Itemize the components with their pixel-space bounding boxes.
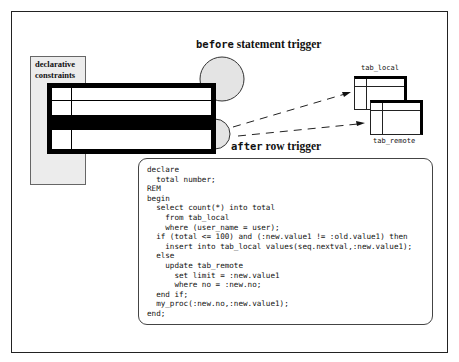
dashed-arrow-to-tab-remote xyxy=(238,124,358,136)
dashed-arrow-to-tab-local xyxy=(233,94,345,127)
trigger-code: declare total number; REM begin select c… xyxy=(147,165,412,319)
arrowhead-icon xyxy=(356,121,365,126)
tab-local-label: tab_local xyxy=(361,64,399,72)
arrowhead-icon xyxy=(342,92,351,97)
table-header-line xyxy=(371,110,420,111)
tab-remote-label: tab_remote xyxy=(373,137,415,145)
tab-remote-table xyxy=(370,100,423,135)
after-label-rest: row trigger xyxy=(263,140,322,152)
after-keyword: after xyxy=(231,140,263,152)
table-key-line xyxy=(382,103,383,134)
after-row-trigger-label: after row trigger xyxy=(231,140,321,152)
trigger-code-box: declare total number; REM begin select c… xyxy=(138,158,433,325)
before-label-rest: statement trigger xyxy=(234,38,322,50)
before-statement-trigger-label: before statement trigger xyxy=(196,38,321,50)
before-keyword: before xyxy=(196,38,234,50)
table-key-line xyxy=(366,79,367,109)
table-header-line xyxy=(355,86,404,87)
